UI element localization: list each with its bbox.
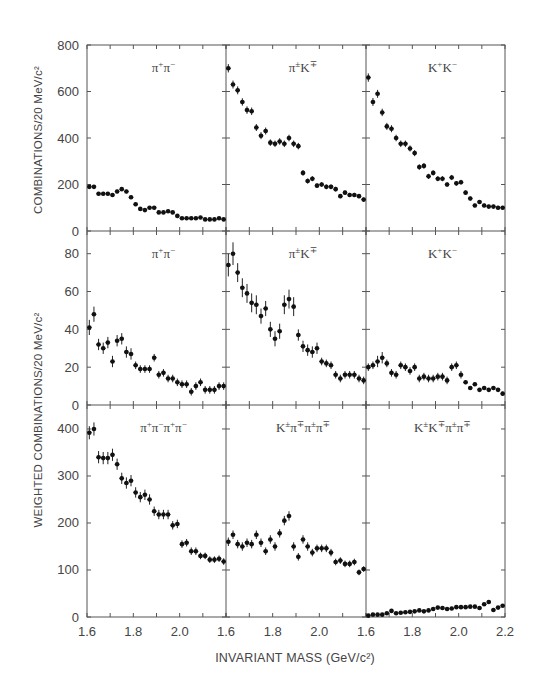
data-point bbox=[338, 194, 343, 199]
data-point bbox=[305, 348, 310, 353]
data-point bbox=[389, 126, 394, 131]
outer-frame bbox=[87, 45, 505, 617]
data-point bbox=[268, 327, 273, 332]
data-point bbox=[87, 430, 92, 435]
data-point bbox=[287, 297, 292, 302]
data-point bbox=[491, 204, 496, 209]
data-point bbox=[385, 361, 390, 366]
x-tick-label: 1.6 bbox=[217, 624, 235, 639]
data-point bbox=[477, 200, 482, 205]
data-point bbox=[212, 217, 217, 222]
data-point bbox=[454, 181, 459, 186]
data-point bbox=[417, 376, 422, 381]
data-point bbox=[166, 209, 171, 214]
panel-label: π±K∓ bbox=[289, 245, 317, 261]
data-point bbox=[133, 363, 138, 368]
data-point bbox=[408, 369, 413, 374]
data-point bbox=[273, 142, 278, 147]
data-point bbox=[398, 142, 403, 147]
data-point bbox=[231, 82, 236, 87]
data-point bbox=[324, 185, 329, 190]
data-point bbox=[486, 600, 491, 605]
data-point bbox=[482, 602, 487, 607]
data-point bbox=[375, 612, 380, 617]
data-point bbox=[87, 185, 92, 190]
particle-mass-spectra-figure: 02004006008000204060800100200300400 1.61… bbox=[0, 0, 541, 691]
data-point bbox=[166, 376, 171, 381]
data-point bbox=[394, 136, 399, 141]
panel-label: π+π−π+π− bbox=[140, 419, 187, 435]
data-point bbox=[138, 367, 143, 372]
data-point bbox=[315, 183, 320, 188]
x-axis-title: INVARIANT MASS (GeV/c²) bbox=[215, 651, 375, 665]
data-point bbox=[440, 374, 445, 379]
data-point bbox=[431, 171, 436, 176]
x-tick-labels: 1.61.82.01.61.82.01.61.82.02.2 bbox=[78, 624, 514, 639]
data-point bbox=[147, 205, 152, 210]
data-point bbox=[343, 562, 348, 567]
data-point bbox=[231, 532, 236, 537]
data-point bbox=[301, 171, 306, 176]
data-point bbox=[147, 497, 152, 502]
data-point bbox=[287, 136, 292, 141]
data-point bbox=[305, 179, 310, 184]
data-point bbox=[157, 512, 162, 517]
data-point bbox=[463, 380, 468, 385]
panel-label: π+π− bbox=[152, 59, 175, 75]
data-point bbox=[221, 384, 226, 389]
data-point bbox=[333, 560, 338, 565]
data-point bbox=[245, 291, 250, 296]
data-point bbox=[124, 189, 129, 194]
data-point bbox=[235, 542, 240, 547]
data-point bbox=[291, 544, 296, 549]
data-point bbox=[115, 189, 120, 194]
data-point bbox=[240, 544, 245, 549]
data-point bbox=[477, 606, 482, 611]
data-point bbox=[454, 605, 459, 610]
data-point bbox=[491, 608, 496, 613]
data-point bbox=[115, 338, 120, 343]
data-point bbox=[375, 359, 380, 364]
data-point bbox=[119, 476, 124, 481]
data-point bbox=[366, 75, 371, 80]
data-point bbox=[361, 567, 366, 572]
data-point bbox=[366, 613, 371, 618]
data-point bbox=[207, 217, 212, 222]
data-point bbox=[380, 355, 385, 360]
data-point bbox=[319, 359, 324, 364]
data-point bbox=[315, 546, 320, 551]
data-point bbox=[240, 100, 245, 105]
y-tick-label: 400 bbox=[57, 421, 79, 436]
data-point bbox=[329, 550, 334, 555]
data-point bbox=[254, 125, 259, 130]
data-point bbox=[175, 522, 180, 527]
data-point bbox=[296, 333, 301, 338]
data-point bbox=[226, 66, 231, 71]
data-point bbox=[180, 216, 185, 221]
data-point bbox=[361, 197, 366, 202]
data-point bbox=[203, 217, 208, 222]
data-point bbox=[101, 192, 106, 197]
data-point bbox=[436, 374, 441, 379]
data-point bbox=[459, 180, 464, 185]
data-point bbox=[259, 314, 264, 319]
data-point bbox=[133, 202, 138, 207]
data-point bbox=[221, 217, 226, 222]
data-point bbox=[245, 108, 250, 113]
data-point bbox=[431, 607, 436, 612]
data-point bbox=[338, 558, 343, 563]
data-point bbox=[500, 603, 505, 608]
data-point bbox=[287, 514, 292, 519]
data-point bbox=[445, 378, 450, 383]
data-point bbox=[87, 325, 92, 330]
data-point bbox=[273, 544, 278, 549]
data-point bbox=[324, 361, 329, 366]
data-point bbox=[305, 544, 310, 549]
y-tick-label: 200 bbox=[57, 515, 79, 530]
y-tick-label: 100 bbox=[57, 562, 79, 577]
data-point bbox=[496, 388, 501, 393]
data-point bbox=[291, 304, 296, 309]
data-point bbox=[436, 176, 441, 181]
data-point bbox=[235, 270, 240, 275]
y-tick-label: 200 bbox=[57, 177, 79, 192]
